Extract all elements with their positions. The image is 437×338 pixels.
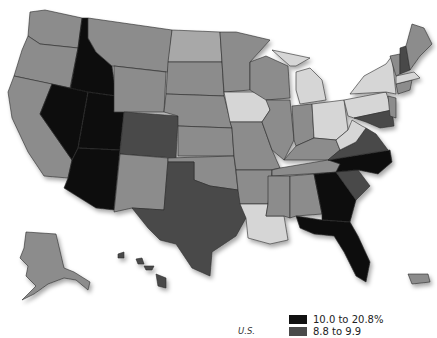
legend-item: 8.8 to 9.9: [289, 326, 383, 337]
state-florida: [296, 216, 370, 282]
legend: 10.0 to 20.8% 8.8 to 9.9: [289, 314, 383, 338]
state-ohio: [312, 100, 348, 140]
state-new-mexico: [114, 154, 168, 212]
state-wisconsin: [250, 56, 290, 100]
state-colorado: [120, 112, 178, 158]
legend-label: 10.0 to 20.8%: [313, 314, 383, 325]
state-wyoming: [114, 66, 166, 112]
us-label: U.S.: [238, 326, 255, 336]
territory-puerto-rico: [408, 274, 430, 284]
legend-swatch-black: [289, 315, 307, 324]
legend-item: 10.0 to 20.8%: [289, 314, 383, 325]
state-kansas: [178, 126, 234, 156]
state-mississippi: [266, 176, 290, 218]
state-south-dakota: [166, 62, 224, 96]
legend-swatch-dark: [289, 327, 307, 336]
state-hawaii: [118, 252, 166, 288]
state-alaska: [20, 232, 90, 300]
state-new-york: [350, 56, 396, 94]
us-choropleth-map: [0, 0, 437, 338]
legend-label: 8.8 to 9.9: [313, 326, 361, 337]
state-north-dakota: [168, 30, 222, 62]
state-arkansas: [236, 170, 272, 204]
state-maine: [406, 24, 432, 70]
